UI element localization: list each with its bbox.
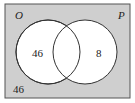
set-o-only-value: 46 xyxy=(32,47,44,59)
set-o-label: O xyxy=(15,9,23,21)
set-p-only-value: 8 xyxy=(96,47,102,59)
venn-diagram: O P 46 8 46 xyxy=(0,0,135,103)
set-p-circle-fill xyxy=(53,20,117,84)
outside-value: 46 xyxy=(13,83,25,95)
set-p-label: P xyxy=(117,9,125,21)
